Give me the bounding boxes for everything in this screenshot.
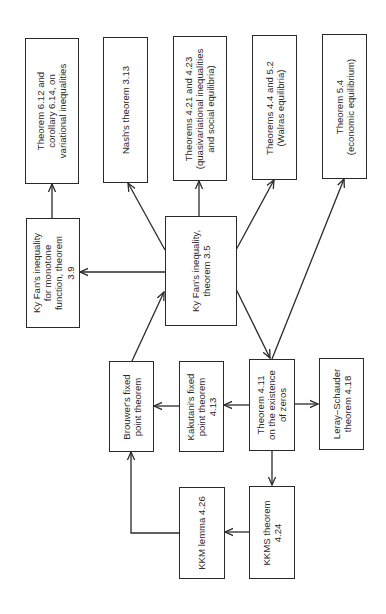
node-label-line: 4.13 — [207, 373, 218, 440]
node-label-line: 3.9 — [64, 233, 75, 313]
node-kkms-theorem: KKMS theorem 4.24 — [249, 486, 295, 579]
node-label-line: point theorem — [196, 373, 207, 440]
node-theorem-4-11: Theorem 4.11 on the existence of zeros — [249, 359, 295, 451]
node-label-line: Ky Fan's inequality — [31, 233, 42, 313]
node-label-line: point theorem — [132, 374, 143, 439]
node-label-line: for monotone — [42, 233, 53, 313]
node-label-line: Leray–Schauder — [330, 369, 341, 439]
node-label-line: KKM lemma 4.26 — [196, 496, 207, 570]
edge-kyfan-to-nash — [128, 183, 165, 250]
edge-kkm-to-brouwer — [131, 452, 179, 533]
edge-kyfan-to-thm411 — [236, 289, 270, 358]
node-label-line: theorem 4.18 — [342, 369, 353, 439]
edge-thm411-to-thm54 — [272, 179, 344, 359]
node-walras-equilibria: Theorems 4.4 and 5.2 (Walras equilibria) — [252, 35, 297, 180]
node-label-line: Kakutani's fixed — [185, 373, 196, 440]
node-kkm-lemma: KKM lemma 4.26 — [179, 487, 225, 579]
node-label-line: (quasivariational inequalities — [194, 48, 205, 169]
edge-brouwer-to-kyfan — [132, 292, 164, 361]
node-label-line: (economic equilibrium) — [345, 58, 356, 155]
node-label-line: theorem 3.5 — [201, 230, 212, 312]
theorem-dependency-diagram: Theorem 6.12 and corollary 6.14, on vari… — [0, 0, 386, 614]
node-theorems-4-21-4-23: Theorems 4.21 and 4.23 (quasivariational… — [173, 36, 227, 181]
node-ky-fan-inequality: Ky Fan's inequality, theorem 3.5 — [165, 216, 237, 326]
node-label-line: corollary 6.14, on — [46, 64, 57, 158]
node-label-line: Theorems 4.4 and 5.2 — [263, 61, 274, 155]
node-leray-schauder: Leray–Schauder theorem 4.18 — [319, 358, 364, 450]
node-label-line: Brouwer's fixed — [120, 374, 131, 439]
node-label-line: Theorem 4.11 — [255, 370, 266, 440]
node-label-line: Theorem 6.12 and — [35, 64, 46, 158]
node-label-line: 4.24 — [272, 500, 283, 565]
node-theorem-5-4: Theorem 5.4 (economic equilibrium) — [322, 34, 367, 179]
node-theorem-6-12: Theorem 6.12 and corollary 6.14, on vari… — [25, 38, 79, 184]
node-kakutani-fixed-point: Kakutani's fixed point theorem 4.13 — [179, 361, 224, 452]
node-label-line: (Walras equilibria) — [275, 61, 286, 155]
node-label-line: on the existence — [266, 370, 277, 440]
node-brouwer-fixed-point: Brouwer's fixed point theorem — [109, 361, 154, 452]
node-label-line: KKMS theorem — [261, 500, 272, 565]
node-label-line: Nash's theorem 3.13 — [120, 66, 131, 154]
node-label-line: Theorem 5.4 — [333, 58, 344, 155]
node-label-line: Theorems 4.21 and 4.23 — [183, 48, 194, 169]
node-label-line: variational inequalities — [58, 64, 69, 158]
node-nash-theorem: Nash's theorem 3.13 — [103, 37, 148, 183]
node-ky-fan-monotone: Ky Fan's inequality for monotone functio… — [26, 218, 80, 328]
node-label-line: Ky Fan's inequality, — [190, 230, 201, 312]
node-label-line: and social equilibria) — [206, 48, 217, 169]
node-label-line: of zeros — [278, 370, 289, 440]
edge-kyfan-to-walras — [236, 180, 274, 250]
node-label-line: function, theorem — [53, 233, 64, 313]
